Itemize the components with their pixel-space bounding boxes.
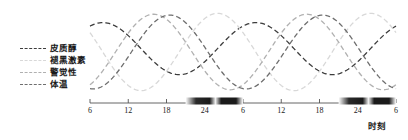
x-axis-tick-label: 6	[241, 106, 245, 115]
series-line	[90, 23, 396, 75]
x-axis-tick-label: 6	[394, 106, 398, 115]
series-line	[90, 13, 396, 90]
x-axis-title: 时刻	[368, 119, 386, 131]
night-band	[186, 98, 243, 105]
circadian-rhythm-chart: 皮质醇褪黑激素警觉性体温 612182461218246 时刻	[0, 0, 408, 140]
x-axis-tick-label: 18	[316, 106, 324, 115]
plot-area	[0, 0, 408, 140]
x-axis-tick-label: 24	[354, 106, 362, 115]
x-axis-tick-label: 18	[163, 106, 171, 115]
x-axis-tick-label: 6	[88, 106, 92, 115]
x-axis-tick-label: 12	[124, 106, 132, 115]
x-axis-tick-label: 12	[277, 106, 285, 115]
x-axis-tick-label: 24	[201, 106, 209, 115]
night-band	[339, 98, 396, 105]
